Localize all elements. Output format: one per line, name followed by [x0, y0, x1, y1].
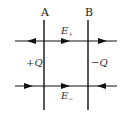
plate-b-label: B	[85, 6, 93, 19]
arrow-right-icon	[61, 38, 70, 44]
field-diagram: A B E+ E− +Q −Q	[0, 0, 127, 120]
arrow-left-icon	[97, 83, 106, 89]
charge-left-label: +Q	[26, 57, 43, 68]
arrow-right-icon	[98, 38, 107, 44]
arrow-left-icon	[27, 38, 36, 44]
bottom-field-label: E−	[60, 90, 73, 102]
top-field-label: E+	[60, 25, 73, 37]
plate-a-label: A	[40, 6, 50, 19]
arrow-right-icon	[24, 83, 33, 89]
charge-right-label: −Q	[91, 57, 108, 68]
arrow-right-icon	[61, 83, 70, 89]
